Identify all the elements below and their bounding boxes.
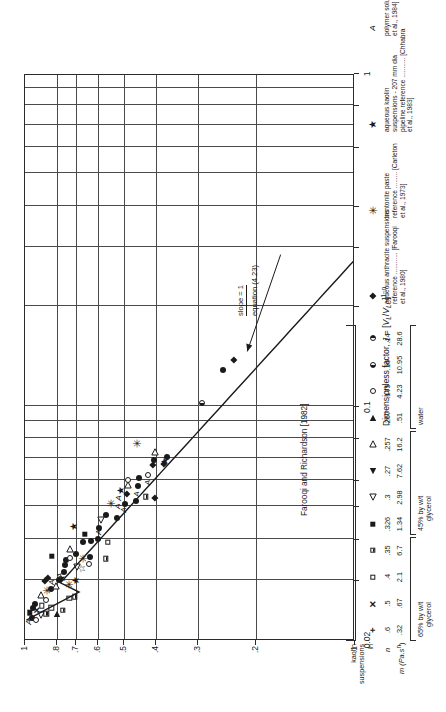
- legend-n-value: .16: [383, 352, 392, 378]
- data-point-cross: ✕: [369, 600, 378, 608]
- legend-symbol: A: [366, 19, 380, 37]
- data-point-circle-half-right: [370, 336, 376, 342]
- y-tick-mark: [75, 640, 76, 645]
- legend-n-value: .257: [383, 432, 392, 458]
- y-tick-mark: [255, 640, 256, 645]
- legend-n-value: .326: [383, 511, 392, 537]
- data-point-square-filled: [370, 521, 375, 526]
- legend-symbol: ✳: [366, 201, 380, 219]
- legend-m-value: 16.2: [395, 432, 404, 458]
- farooqi-group-label: Farooqi and Richardson [1982]: [300, 404, 309, 516]
- legend-n-value: .5: [383, 591, 392, 617]
- data-point-circle-half-left: [370, 362, 376, 368]
- data-point-triangle-left-open: [369, 494, 377, 502]
- y-tick-label: .4: [150, 646, 160, 670]
- y-tick-mark: [97, 640, 98, 645]
- legend-m-value: .51: [395, 405, 404, 431]
- legend-m-value: 7.62: [395, 458, 404, 484]
- legend-symbol: [366, 356, 380, 374]
- x-tick-mark: [354, 306, 359, 307]
- legend-group-label: water: [417, 407, 425, 425]
- data-point-square-half-bottom: [370, 548, 375, 553]
- legend-m-value: .32: [395, 617, 404, 643]
- y-tick-label: 1: [19, 646, 29, 670]
- y-tick-mark: [197, 640, 198, 645]
- legend-header-n: n: [383, 648, 392, 652]
- legend-symbol: [366, 409, 380, 427]
- slope-annotation: slope = 1: [236, 285, 247, 316]
- legend-symbol: [366, 383, 380, 401]
- x-tick-mark: [354, 105, 359, 106]
- data-point-diamond-filled: [369, 292, 376, 299]
- legend-symbol: [366, 436, 380, 454]
- legend-n-value: .35: [383, 538, 392, 564]
- legend-symbol: [366, 330, 380, 348]
- legend-description: polymer solutions [Chhabraet al., 1984]: [383, 0, 399, 36]
- legend: nm (Pa.sn)+.6.32✕.5.67.42.1.356.7.3261.3…: [366, 74, 440, 640]
- legend-description: bentonite pastereference ......... [Carl…: [383, 143, 406, 218]
- legend-description: aqueous kaolinsuspensions - 207 mm diapi…: [383, 29, 414, 132]
- legend-symbol: [366, 542, 380, 560]
- data-point-triangle-right-filled: [369, 414, 377, 422]
- equation-annotation: equation (4.23): [250, 265, 259, 316]
- plot-area: A✕✳AA★✳★★☆✳A✳AA★AA✳A★: [24, 74, 354, 640]
- data-point-asterisk: ✳: [368, 206, 379, 215]
- legend-n-value: .267: [383, 405, 392, 431]
- x-tick-mark: [354, 147, 359, 148]
- legend-outer-brace: [346, 326, 356, 642]
- legend-group-label: 65% by w/tglycerol: [417, 602, 434, 637]
- y-tick-mark: [155, 640, 156, 645]
- legend-n-value: .175: [383, 379, 392, 405]
- legend-n-value: .27: [383, 458, 392, 484]
- y-tick-label: .2: [250, 646, 260, 670]
- y-tick-label: .8: [51, 646, 61, 670]
- trend-line: [25, 74, 354, 639]
- legend-m-value: 1.34: [395, 511, 404, 537]
- legend-n-value: .6: [383, 617, 392, 643]
- y-tick-label: .6: [92, 646, 102, 670]
- figure-page: A✕✳AA★✳★★☆✳A✳AA★AA✳A★ 1.8.7.6.5.4.3.2.1 …: [0, 0, 446, 712]
- legend-n-value: .4: [383, 564, 392, 590]
- legend-m-value: 28.6: [395, 326, 404, 352]
- data-point-letter-A: A: [369, 25, 377, 30]
- y-tick-mark: [24, 640, 25, 645]
- x-tick-mark: [354, 247, 359, 248]
- y-tick-mark: [56, 640, 57, 645]
- legend-m-value: 2.1: [395, 564, 404, 590]
- legend-n-value: .3: [383, 485, 392, 511]
- legend-kaolin-label: kaolinsuspensionsin: [350, 644, 375, 690]
- legend-n-value: .14: [383, 326, 392, 352]
- legend-symbol: [366, 489, 380, 507]
- legend-m-value: 6.7: [395, 538, 404, 564]
- legend-m-value: .67: [395, 591, 404, 617]
- data-point-square-open: [370, 574, 375, 579]
- data-point-star-filled: ★: [368, 120, 378, 129]
- legend-symbol: [366, 515, 380, 533]
- legend-group-label: 45% by w/tglycerol: [417, 496, 434, 531]
- legend-symbol: ★: [366, 115, 380, 133]
- legend-description: aqueous anthracite suspensionsreference …: [383, 209, 406, 304]
- data-point-triangle-right-open: [369, 441, 377, 449]
- data-point-triangle-left-filled: [369, 467, 377, 475]
- legend-m-value: 2.98: [395, 485, 404, 511]
- data-point-plus: +: [369, 627, 378, 632]
- legend-symbol: +: [366, 621, 380, 639]
- legend-symbol: [366, 568, 380, 586]
- rotated-figure: A✕✳AA★✳★★☆✳A✳AA★AA✳A★ 1.8.7.6.5.4.3.2.1 …: [0, 0, 446, 712]
- y-tick-label: .3: [192, 646, 202, 670]
- y-tick-mark: [123, 640, 124, 645]
- x-tick-mark: [354, 73, 359, 74]
- y-tick-label: .7: [70, 646, 80, 670]
- data-point-circle-open: [370, 389, 376, 395]
- legend-m-value: 4.23: [395, 379, 404, 405]
- legend-symbol: ✕: [366, 595, 380, 613]
- legend-header-m: m (Pa.sn): [395, 643, 406, 675]
- legend-m-value: 10.95: [395, 352, 404, 378]
- legend-symbol: [366, 287, 380, 305]
- x-tick-mark: [354, 206, 359, 207]
- y-tick-label: .5: [118, 646, 128, 670]
- legend-symbol: [366, 462, 380, 480]
